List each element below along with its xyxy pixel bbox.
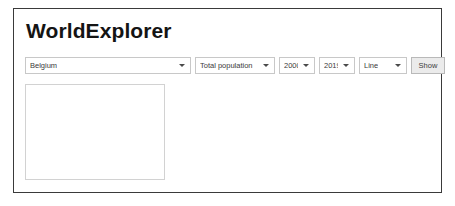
page-title: WorldExplorer xyxy=(26,18,172,43)
country-select[interactable]: Belgium xyxy=(25,57,191,74)
chevron-down-icon xyxy=(343,64,349,67)
chart-type-select-value: Line xyxy=(364,58,378,73)
chevron-down-icon xyxy=(263,64,269,67)
year-to-select-value: 2019 xyxy=(324,58,338,73)
chevron-down-icon xyxy=(395,64,401,67)
year-from-select[interactable]: 2000 xyxy=(279,57,315,74)
indicator-select[interactable]: Total population xyxy=(195,57,275,74)
country-select-value: Belgium xyxy=(30,58,57,73)
app-window: WorldExplorer Belgium Total population 2… xyxy=(13,8,442,193)
controls-toolbar: Belgium Total population 2000 2019 Line … xyxy=(25,57,445,74)
year-to-select[interactable]: 2019 xyxy=(319,57,355,74)
show-button[interactable]: Show xyxy=(411,57,445,74)
chevron-down-icon xyxy=(303,64,309,67)
chart-empty-placeholder xyxy=(26,85,164,179)
chart-canvas xyxy=(25,84,165,180)
chevron-down-icon xyxy=(179,64,185,67)
indicator-select-value: Total population xyxy=(200,58,253,73)
year-from-select-value: 2000 xyxy=(284,58,298,73)
chart-type-select[interactable]: Line xyxy=(359,57,407,74)
